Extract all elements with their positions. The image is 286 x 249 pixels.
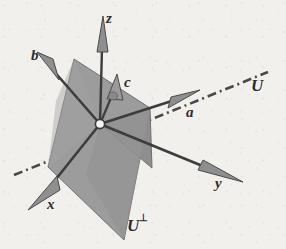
label-u-perp-base: U	[127, 216, 139, 235]
label-vector-c: c	[124, 75, 131, 90]
vector-space-figure: z y x a b c U U⊥	[0, 0, 286, 249]
label-vector-a: a	[186, 105, 194, 120]
label-vector-b: b	[31, 48, 39, 63]
vector-c-tip-dot	[109, 92, 118, 100]
label-subspace-u-perp: U⊥	[127, 216, 148, 234]
label-subspace-u: U	[251, 77, 263, 94]
label-axis-x: x	[47, 197, 55, 212]
perpendicular-icon: ⊥	[139, 212, 148, 223]
origin-point	[95, 119, 104, 128]
label-axis-z: z	[106, 11, 112, 26]
label-axis-y: y	[215, 176, 222, 191]
